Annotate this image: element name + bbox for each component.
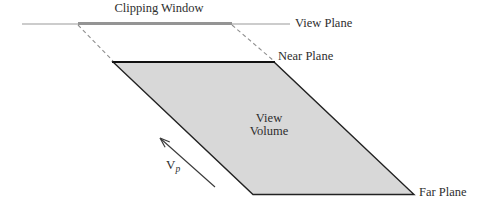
left-dashed-projector <box>78 25 113 61</box>
vp-vector-base: V <box>166 157 175 172</box>
view-volume-diagram: Clipping Window View Plane Near Plane Vi… <box>0 0 482 205</box>
far-plane-label: Far Plane <box>419 186 467 199</box>
view-plane-label: View Plane <box>295 17 352 30</box>
vp-vector-label: Vp <box>166 158 180 171</box>
clipping-window-label: Clipping Window <box>94 2 224 15</box>
vp-vector-subscript: p <box>175 164 180 174</box>
view-volume-label: View Volume <box>234 112 304 138</box>
view-volume-label-line2: Volume <box>234 125 304 138</box>
right-dashed-projector <box>232 25 274 61</box>
diagram-canvas <box>0 0 482 205</box>
near-plane-label: Near Plane <box>278 50 333 63</box>
